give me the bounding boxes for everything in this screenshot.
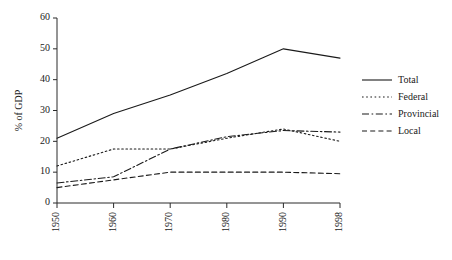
legend-label-federal: Federal <box>398 91 428 102</box>
series-line-local <box>57 172 340 187</box>
y-axis-tick-label: 60 <box>40 11 50 22</box>
series-line-federal <box>57 129 340 166</box>
x-axis-tick-label: 1998 <box>333 212 344 232</box>
chart-legend: TotalFederalProvincialLocal <box>362 74 439 136</box>
x-axis-tick-group: 195019601970198019901998 <box>50 203 344 232</box>
data-series-group <box>57 49 340 188</box>
series-line-provincial <box>57 131 340 183</box>
y-axis-title: % of GDP <box>13 89 24 131</box>
line-chart-canvas: 0102030405060 195019601970198019901998 %… <box>0 0 452 260</box>
x-axis-tick-label: 1960 <box>107 212 118 232</box>
legend-label-local: Local <box>398 125 421 136</box>
y-axis-tick-label: 40 <box>40 73 50 84</box>
chart-figure: 0102030405060 195019601970198019901998 %… <box>0 0 452 260</box>
legend-label-provincial: Provincial <box>398 108 439 119</box>
x-axis-tick-label: 1990 <box>277 212 288 232</box>
y-axis-tick-label: 20 <box>40 135 50 146</box>
legend-label-total: Total <box>398 74 419 85</box>
y-axis-tick-label: 0 <box>45 196 50 207</box>
x-axis-tick-label: 1950 <box>50 212 61 232</box>
series-line-total <box>57 49 340 138</box>
y-axis-tick-label: 50 <box>40 42 50 53</box>
x-axis-tick-label: 1970 <box>163 212 174 232</box>
y-axis-tick-label: 30 <box>40 104 50 115</box>
x-axis-tick-label: 1980 <box>220 212 231 232</box>
y-axis-tick-label: 10 <box>40 165 50 176</box>
y-axis-tick-group: 0102030405060 <box>40 11 57 207</box>
